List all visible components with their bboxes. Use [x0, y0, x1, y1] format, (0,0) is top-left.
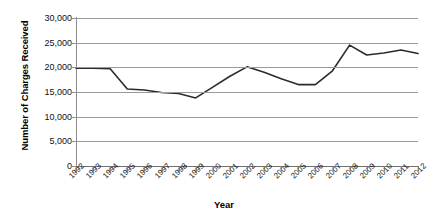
y-axis-tick	[71, 18, 76, 19]
x-axis-tick	[162, 166, 163, 171]
y-axis-tick	[71, 67, 76, 68]
x-axis-tick	[367, 166, 368, 171]
x-axis-tick	[179, 166, 180, 171]
x-axis-tick	[213, 166, 214, 171]
x-axis-tick	[110, 166, 111, 171]
x-axis-tick	[384, 166, 385, 171]
x-axis-tick	[196, 166, 197, 171]
x-axis-tick	[281, 166, 282, 171]
x-axis-tick	[298, 166, 299, 171]
x-axis-tick-labels: 1992199319941995199619971998199920002001…	[0, 0, 448, 220]
x-axis-tick	[333, 166, 334, 171]
x-axis-tick	[230, 166, 231, 171]
line-chart: Number of Charges Received 05,00010,0001…	[0, 0, 448, 220]
y-axis-tick	[71, 141, 76, 142]
y-axis-tick	[71, 92, 76, 93]
x-axis-tick	[315, 166, 316, 171]
x-axis-tick	[76, 166, 77, 171]
x-axis-tick	[264, 166, 265, 171]
x-axis-tick	[93, 166, 94, 171]
x-axis-tick	[401, 166, 402, 171]
x-axis-tick-label: 2011	[392, 162, 411, 181]
x-axis-tick	[144, 166, 145, 171]
x-axis-title: Year	[0, 199, 448, 210]
x-axis-tick	[127, 166, 128, 171]
y-axis-tick	[71, 43, 76, 44]
y-axis-tick	[71, 117, 76, 118]
x-axis-tick	[418, 166, 419, 171]
x-axis-tick	[350, 166, 351, 171]
x-axis-tick	[247, 166, 248, 171]
